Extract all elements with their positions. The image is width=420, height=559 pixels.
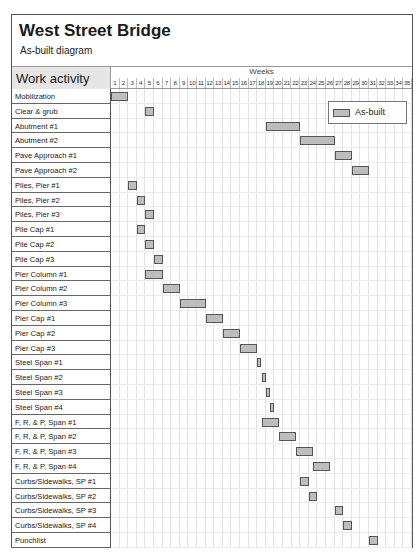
task-row: Pave Approach #1 xyxy=(12,148,412,163)
task-label: Abutment #2 xyxy=(12,133,111,148)
task-label: Pier Cap #2 xyxy=(12,326,111,341)
legend: As-built xyxy=(328,101,407,124)
task-row: Curbs/Sidewalks, SP #3 xyxy=(12,503,412,518)
week-tick-label: 20 xyxy=(274,78,283,88)
week-tick-label: 23 xyxy=(300,78,309,88)
weeks-axis-title: Weeks xyxy=(111,67,412,77)
task-row: F, R, & P, Span #3 xyxy=(12,444,412,459)
task-label: Abutment #1 xyxy=(12,119,111,134)
task-label: Pave Approach #1 xyxy=(12,148,111,163)
task-label: Punchlist xyxy=(12,533,111,548)
task-label: Curbs/Sidewalks, SP #1 xyxy=(12,474,111,489)
week-tick-label: 9 xyxy=(180,78,189,88)
task-label: Steel Span #4 xyxy=(12,400,111,415)
task-label: Curbs/Sidewalks, SP #3 xyxy=(12,503,111,518)
task-label: Pier Cap #1 xyxy=(12,311,111,326)
task-row: Pier Cap #2 xyxy=(12,326,412,341)
task-row: Steel Span #2 xyxy=(12,370,412,385)
task-label: F, R, & P, Span #1 xyxy=(12,415,111,430)
task-label: Steel Span #1 xyxy=(12,355,111,370)
chart-frame: West Street Bridge As-built diagram Work… xyxy=(11,14,413,548)
task-label: Pier Cap #3 xyxy=(12,341,111,356)
week-tick-label: 31 xyxy=(369,78,378,88)
legend-label: As-built xyxy=(355,107,385,117)
task-label: F, R, & P, Span #4 xyxy=(12,459,111,474)
task-row: Pier Column #2 xyxy=(12,281,412,296)
task-row: F, R, & P, Span #2 xyxy=(12,429,412,444)
week-tick-labels: 1234567891011121314151617181920212223242… xyxy=(111,78,412,88)
task-label: Mobilization xyxy=(12,89,111,104)
task-row: Piles, Pier #3 xyxy=(12,207,412,222)
task-label: F, R, & P, Span #3 xyxy=(12,444,111,459)
week-tick-label: 32 xyxy=(377,78,386,88)
week-tick-label: 10 xyxy=(188,78,197,88)
task-row: Piles, Pier #1 xyxy=(12,178,412,193)
week-tick-label: 28 xyxy=(343,78,352,88)
task-label: Curbs/Sidewalks, SP #2 xyxy=(12,489,111,504)
task-label: Piles, Pier #3 xyxy=(12,207,111,222)
task-label: Clear & grub xyxy=(12,104,111,119)
task-label: Pier Column #1 xyxy=(12,267,111,282)
week-tick-label: 30 xyxy=(360,78,369,88)
task-row: Punchlist xyxy=(12,533,412,548)
week-tick-label: 21 xyxy=(283,78,292,88)
week-tick-label: 5 xyxy=(145,78,154,88)
task-rows: MobilizationClear & grubAbutment #1Abutm… xyxy=(12,89,412,548)
task-row: Piles, Pier #2 xyxy=(12,193,412,208)
week-tick-label: 13 xyxy=(214,78,223,88)
header-row: Work activity Weeks 12345678910111213141… xyxy=(12,66,412,89)
week-tick-label: 17 xyxy=(249,78,258,88)
week-tick-label: 35 xyxy=(403,78,412,88)
task-label: Pile Cap #1 xyxy=(12,222,111,237)
week-tick-label: 7 xyxy=(163,78,172,88)
task-row: F, R, & P, Span #1 xyxy=(12,415,412,430)
task-row: Pile Cap #1 xyxy=(12,222,412,237)
task-row: Curbs/Sidewalks, SP #1 xyxy=(12,474,412,489)
task-row: F, R, & P, Span #4 xyxy=(12,459,412,474)
task-label: Steel Span #2 xyxy=(12,370,111,385)
week-tick-label: 12 xyxy=(206,78,215,88)
week-tick-label: 19 xyxy=(266,78,275,88)
week-tick-label: 27 xyxy=(334,78,343,88)
week-tick-label: 33 xyxy=(386,78,395,88)
task-row: Pier Cap #1 xyxy=(12,311,412,326)
task-row: Pier Column #3 xyxy=(12,296,412,311)
week-tick-label: 22 xyxy=(291,78,300,88)
task-row: Steel Span #1 xyxy=(12,355,412,370)
task-label: Pile Cap #2 xyxy=(12,237,111,252)
week-tick-label: 25 xyxy=(317,78,326,88)
task-row: Steel Span #3 xyxy=(12,385,412,400)
task-label: Piles, Pier #1 xyxy=(12,178,111,193)
task-row: Pile Cap #2 xyxy=(12,237,412,252)
week-tick-label: 15 xyxy=(231,78,240,88)
task-label: Curbs/Sidewalks, SP #4 xyxy=(12,518,111,533)
chart-title: West Street Bridge xyxy=(19,21,171,41)
task-label: Piles, Pier #2 xyxy=(12,193,111,208)
week-tick-label: 8 xyxy=(171,78,180,88)
week-tick-label: 2 xyxy=(120,78,129,88)
week-tick-label: 24 xyxy=(309,78,318,88)
week-tick-label: 1 xyxy=(111,78,120,88)
task-label: F, R, & P, Span #2 xyxy=(12,429,111,444)
task-label: Steel Span #3 xyxy=(12,385,111,400)
work-activity-header: Work activity xyxy=(12,67,111,89)
week-tick-label: 3 xyxy=(128,78,137,88)
task-row: Abutment #2 xyxy=(12,133,412,148)
week-tick-label: 14 xyxy=(223,78,232,88)
week-tick-label: 34 xyxy=(395,78,404,88)
task-row: Pier Column #1 xyxy=(12,267,412,282)
task-row: Steel Span #4 xyxy=(12,400,412,415)
week-tick-label: 6 xyxy=(154,78,163,88)
week-tick-label: 18 xyxy=(257,78,266,88)
legend-swatch-as-built xyxy=(333,109,350,117)
task-row: Curbs/Sidewalks, SP #2 xyxy=(12,489,412,504)
task-label: Pile Cap #3 xyxy=(12,252,111,267)
chart-subtitle: As-built diagram xyxy=(20,45,92,56)
task-label: Pier Column #2 xyxy=(12,281,111,296)
task-row: Pile Cap #3 xyxy=(12,252,412,267)
task-row: Curbs/Sidewalks, SP #4 xyxy=(12,518,412,533)
week-tick-label: 26 xyxy=(326,78,335,88)
task-label: Pier Column #3 xyxy=(12,296,111,311)
task-label: Pave Approach #2 xyxy=(12,163,111,178)
week-tick-label: 29 xyxy=(352,78,361,88)
